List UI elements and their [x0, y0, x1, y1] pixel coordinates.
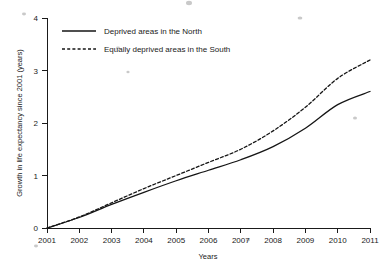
x-tick-label-2008: 2008: [264, 236, 282, 245]
y-tick-label-1: 1: [34, 172, 39, 181]
y-tick-label-0: 0: [34, 224, 39, 233]
x-tick-label-2006: 2006: [200, 236, 218, 245]
x-tick-label-2009: 2009: [297, 236, 315, 245]
line-chart: 0 1 2 3 4 Growth in life expectancy sinc…: [0, 0, 381, 270]
x-tick-label-2010: 2010: [329, 236, 347, 245]
y-tick-label-4: 4: [34, 14, 39, 23]
x-tick-label-2011: 2011: [361, 236, 379, 245]
x-tick-label-2007: 2007: [232, 236, 250, 245]
series-group: [47, 60, 370, 228]
x-axis: 2001 2002 2003 2004 2005 2006 2007 2008 …: [38, 228, 379, 261]
x-tick-label-2001: 2001: [38, 236, 56, 245]
x-tick-label-2003: 2003: [103, 236, 121, 245]
legend-label-north: Deprived areas in the North: [104, 27, 202, 36]
y-tick-label-3: 3: [34, 67, 39, 76]
x-tick-label-2002: 2002: [70, 236, 88, 245]
chart-legend: Deprived areas in the North Equally depr…: [62, 27, 230, 54]
series-line-north: [47, 92, 370, 229]
y-tick-label-2: 2: [34, 119, 39, 128]
x-tick-label-2005: 2005: [167, 236, 185, 245]
series-line-south: [47, 60, 370, 228]
legend-label-south: Equally deprived areas in the South: [104, 45, 230, 54]
y-axis: 0 1 2 3 4 Growth in life expectancy sinc…: [15, 14, 47, 233]
x-axis-title: Years: [199, 252, 218, 261]
y-axis-title: Growth in life expectancy since 2001 (ye…: [15, 49, 24, 197]
chart-figure: 0 1 2 3 4 Growth in life expectancy sinc…: [0, 0, 381, 270]
x-tick-label-2004: 2004: [135, 236, 153, 245]
scan-artifacts: [22, 1, 357, 248]
